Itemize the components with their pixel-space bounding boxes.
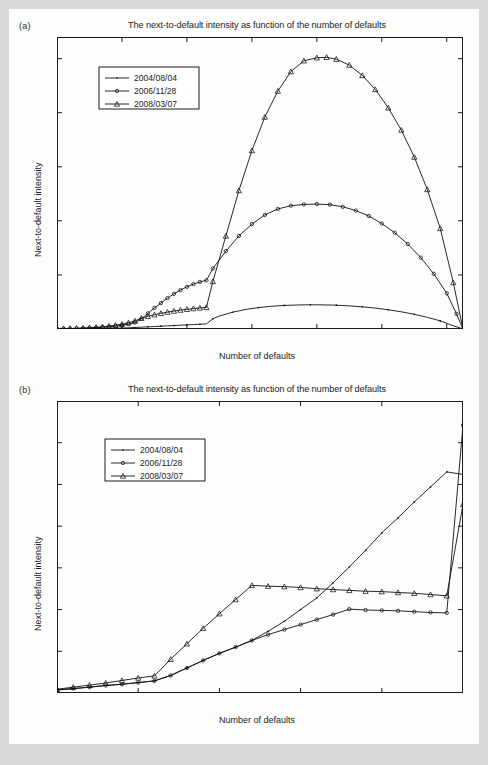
panel-a-y-axis-label: Next-to-default intensity — [33, 162, 43, 257]
data-marker-dot — [122, 449, 124, 451]
data-marker-dot — [267, 630, 269, 632]
data-marker-dot — [173, 325, 175, 327]
data-marker-dot — [316, 597, 318, 599]
data-marker-dot — [232, 311, 234, 313]
data-marker-dot — [365, 549, 367, 551]
data-marker-dot — [348, 566, 350, 568]
legend-label: 2006/11/28 — [134, 86, 177, 96]
legend-label: 2004/08/04 — [134, 73, 177, 83]
data-marker-dot — [300, 609, 302, 611]
panel-b: (b) The next-to-default intensity as fun… — [9, 381, 479, 739]
panel-b-y-axis-label: Next-to-default intensity — [33, 536, 43, 631]
panel-b-title: The next-to-default intensity as functio… — [9, 384, 479, 394]
panel-b-plot-area: 0510152025051015202530352004/08/042006/1… — [57, 401, 463, 693]
data-marker-dot — [199, 323, 201, 325]
data-marker-dot — [309, 304, 311, 306]
legend-label: 2006/11/28 — [140, 458, 183, 468]
panel-b-x-axis-label: Number of defaults — [9, 715, 479, 725]
data-marker-dot — [335, 304, 337, 306]
data-marker-dot — [186, 324, 188, 326]
legend-label: 2008/03/07 — [140, 471, 183, 481]
legend-label: 2008/03/07 — [134, 99, 177, 109]
data-marker-dot — [381, 532, 383, 534]
data-marker-dot — [413, 501, 415, 503]
data-marker-dot — [258, 307, 260, 309]
data-marker-dot — [212, 318, 214, 320]
series-line — [57, 504, 463, 689]
data-marker-dot — [446, 471, 448, 473]
data-marker-dot — [439, 320, 441, 322]
panel-a: (a) The next-to-default intensity as fun… — [9, 17, 479, 372]
data-marker-dot — [413, 313, 415, 315]
data-marker-dot — [160, 325, 162, 327]
data-marker-dot — [332, 582, 334, 584]
legend: 2004/08/042006/11/282008/03/07 — [99, 67, 199, 109]
figure-sheet: (a) The next-to-default intensity as fun… — [9, 9, 479, 744]
data-marker-dot — [147, 326, 149, 328]
panel-a-title: The next-to-default intensity as functio… — [9, 20, 479, 30]
series-2006/11/28 — [57, 202, 463, 329]
figure-page: (a) The next-to-default intensity as fun… — [0, 0, 488, 765]
panel-a-x-axis-label: Number of defaults — [9, 351, 479, 361]
legend: 2004/08/042006/11/282008/03/07 — [105, 439, 205, 481]
data-marker-dot — [116, 77, 118, 79]
data-marker-dot — [361, 306, 363, 308]
panel-a-plot-area: 020406080100120050010001500200025002004/… — [57, 37, 463, 329]
data-marker-dot — [134, 327, 136, 329]
data-marker-dot — [284, 620, 286, 622]
data-marker-dot — [430, 486, 432, 488]
series-2004/08/04 — [57, 471, 463, 691]
series-2008/03/07 — [57, 502, 463, 692]
legend-label: 2004/08/04 — [140, 445, 183, 455]
series-line — [57, 204, 463, 329]
data-marker-dot — [387, 309, 389, 311]
series-line — [57, 305, 463, 329]
data-marker-dot — [284, 305, 286, 307]
series-line — [57, 472, 463, 690]
data-marker-dot — [121, 327, 123, 329]
data-marker-dot — [397, 517, 399, 519]
